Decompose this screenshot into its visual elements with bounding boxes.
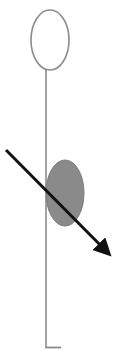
diagram-svg	[0, 0, 124, 358]
gray-ellipse	[46, 160, 84, 226]
diagram-canvas	[0, 0, 124, 358]
head-ellipse	[31, 10, 69, 70]
